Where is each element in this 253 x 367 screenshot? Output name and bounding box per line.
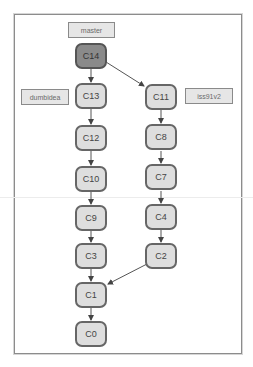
edge-c2-c1 bbox=[108, 264, 147, 284]
commit-node-c8: C8 bbox=[145, 124, 177, 150]
commit-node-c14: C14 bbox=[75, 43, 107, 69]
edge-c14-c11 bbox=[106, 62, 144, 86]
commit-node-c11: C11 bbox=[145, 84, 177, 110]
commit-node-c2: C2 bbox=[145, 243, 177, 269]
commit-node-c1: C1 bbox=[75, 282, 107, 308]
commit-edges bbox=[0, 0, 253, 367]
commit-node-c0: C0 bbox=[75, 321, 107, 347]
commit-node-c13: C13 bbox=[75, 83, 107, 109]
commit-node-c9: C9 bbox=[75, 205, 107, 231]
branch-label-dumbidea: dumbidea bbox=[21, 89, 69, 105]
commit-node-c7: C7 bbox=[145, 164, 177, 190]
branch-label-master: master bbox=[68, 22, 115, 38]
commit-node-c3: C3 bbox=[75, 243, 107, 269]
commit-node-c12: C12 bbox=[75, 125, 107, 151]
commit-node-c10: C10 bbox=[75, 166, 107, 192]
commit-node-c4: C4 bbox=[145, 204, 177, 230]
branch-label-iss91v2: iss91v2 bbox=[185, 88, 233, 104]
